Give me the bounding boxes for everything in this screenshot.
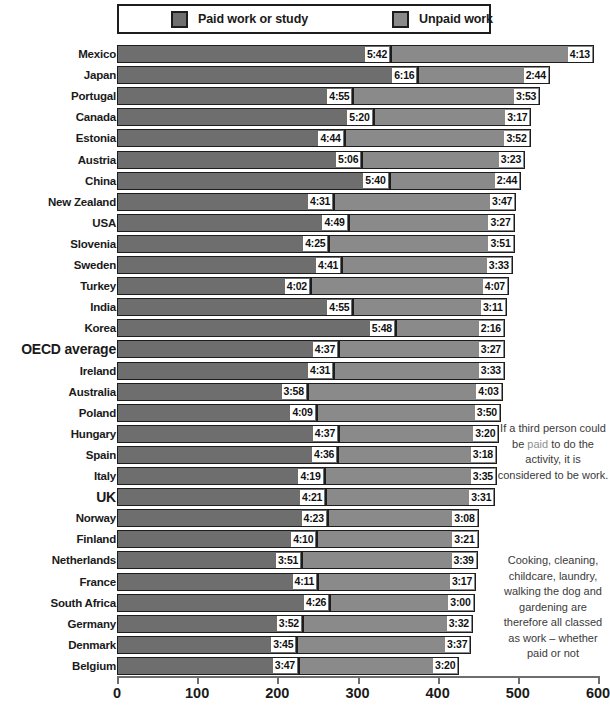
legend-entry-paid: Paid work or study (171, 11, 308, 28)
bar-value-label: 5:06 (336, 152, 360, 167)
bar-value-label: 3:08 (452, 511, 476, 526)
bar-value-label: 3:18 (471, 447, 495, 462)
x-axis-tick-label: 100 (185, 685, 209, 701)
bar-value-label: 3:50 (475, 405, 499, 420)
bar-value-label: 3:27 (479, 342, 503, 357)
annotation-note-paid-definition: If a third person could be paid to do th… (497, 421, 609, 483)
chart-row: Turkey4:024:07 (0, 277, 610, 295)
bar-value-label: 5:48 (370, 321, 394, 336)
legend-label-unpaid: Unpaid work (419, 12, 493, 26)
bar-value-label: 3:20 (473, 426, 497, 441)
bar-segment-unpaid: 4:03 (308, 383, 503, 401)
bar-segment-paid: 4:11 (117, 573, 318, 591)
chart-row: Canada5:203:17 (0, 108, 610, 126)
chart-row: Poland4:093:50 (0, 404, 610, 422)
stacked-bar: 5:203:17 (117, 108, 531, 126)
bar-segment-unpaid: 3:33 (334, 362, 505, 380)
row-label-japan: Japan (84, 66, 116, 84)
row-label-new-zealand: New Zealand (48, 193, 116, 211)
stacked-bar: 4:263:00 (117, 594, 475, 612)
bar-segment-unpaid: 3:18 (338, 446, 497, 464)
stacked-bar: 5:424:13 (117, 45, 594, 63)
bar-value-label: 3:37 (445, 637, 469, 652)
bar-segment-paid: 4:31 (117, 362, 334, 380)
chart-legend: Paid work or study Unpaid work (117, 4, 491, 34)
bar-segment-unpaid: 3:51 (329, 235, 514, 253)
row-label-portugal: Portugal (71, 87, 116, 105)
annotation-note-unpaid-examples: Cooking, cleaning, childcare, laundry, w… (497, 553, 609, 662)
bar-value-label: 4:13 (568, 47, 592, 62)
bar-segment-unpaid: 3:37 (297, 636, 471, 654)
row-label-turkey: Turkey (80, 277, 116, 295)
bar-value-label: 2:44 (495, 173, 519, 188)
chart-row: Sweden4:413:33 (0, 256, 610, 274)
bar-value-label: 3:27 (488, 215, 512, 230)
bar-value-label: 4:49 (322, 215, 346, 230)
x-axis-tick (358, 676, 360, 684)
bar-segment-unpaid: 3:50 (317, 404, 501, 422)
chart-row: India4:553:11 (0, 298, 610, 316)
stacked-bar: 3:584:03 (117, 383, 503, 401)
x-axis-tick-label: 300 (345, 685, 369, 701)
chart-row: Finland4:103:21 (0, 530, 610, 548)
bar-segment-paid: 4:25 (117, 235, 329, 253)
chart-row: UK4:213:31 (0, 488, 610, 506)
stacked-bar: 4:103:21 (117, 530, 479, 548)
bar-value-label: 3:23 (499, 152, 523, 167)
bar-segment-paid: 5:06 (117, 151, 362, 169)
bar-segment-unpaid: 3:00 (330, 594, 474, 612)
bar-value-label: 4:41 (316, 258, 340, 273)
row-label-poland: Poland (79, 404, 116, 422)
bar-value-label: 4:10 (291, 532, 315, 547)
bar-value-label: 4:09 (290, 405, 314, 420)
legend-swatch-paid-icon (171, 11, 188, 28)
row-label-estonia: Estonia (76, 129, 116, 147)
row-label-south-africa: South Africa (50, 594, 116, 612)
bar-segment-paid: 3:47 (117, 657, 299, 675)
x-axis-tick (598, 676, 600, 684)
x-axis-tick (518, 676, 520, 684)
x-axis-tick-label: 200 (265, 685, 289, 701)
bar-segment-unpaid: 3:20 (299, 657, 459, 675)
bar-segment-unpaid: 3:17 (318, 573, 476, 591)
chart-row: Australia3:584:03 (0, 383, 610, 401)
bar-segment-paid: 3:52 (117, 615, 303, 633)
stacked-bar: 3:513:39 (117, 551, 478, 569)
chart-row: New Zealand4:313:47 (0, 193, 610, 211)
row-label-canada: Canada (76, 108, 116, 126)
bar-segment-unpaid: 4:07 (311, 277, 509, 295)
stacked-bar: 4:193:35 (117, 467, 497, 485)
bar-value-label: 5:42 (365, 47, 389, 62)
bar-segment-paid: 3:45 (117, 636, 297, 654)
x-axis-tick-label: 400 (426, 685, 450, 701)
bar-segment-unpaid: 3:27 (339, 340, 505, 358)
bar-segment-unpaid: 4:13 (391, 45, 594, 63)
x-axis: 0100200300400500600 (0, 676, 610, 723)
row-label-india: India (90, 298, 116, 316)
bar-segment-unpaid: 2:16 (396, 319, 505, 337)
chart-row: Ireland4:313:33 (0, 362, 610, 380)
stacked-bar: 4:233:08 (117, 509, 479, 527)
bar-value-label: 3:31 (469, 490, 493, 505)
row-label-slovenia: Slovenia (70, 235, 116, 253)
stacked-bar: 5:482:16 (117, 319, 505, 337)
chart-row: China5:402:44 (0, 172, 610, 190)
bar-value-label: 3:51 (488, 236, 512, 251)
bar-segment-unpaid: 2:44 (418, 66, 549, 84)
row-label-usa: USA (92, 214, 116, 232)
stacked-bar: 4:373:27 (117, 340, 505, 358)
bar-value-label: 3:17 (450, 574, 474, 589)
stacked-bar: 4:443:52 (117, 129, 531, 147)
x-axis-tick (277, 676, 279, 684)
chart-row: Mexico5:424:13 (0, 45, 610, 63)
bar-value-label: 4:55 (327, 300, 351, 315)
x-axis-tick-label: 600 (586, 685, 610, 701)
bar-segment-paid: 3:58 (117, 383, 308, 401)
stacked-bar: 4:553:53 (117, 87, 540, 105)
x-axis-tick (197, 676, 199, 684)
stacked-bar: 4:373:20 (117, 425, 499, 443)
chart-row: Portugal4:553:53 (0, 87, 610, 105)
bar-value-label: 3:32 (447, 616, 471, 631)
bar-value-label: 3:52 (277, 616, 301, 631)
bar-segment-paid: 4:36 (117, 446, 338, 464)
